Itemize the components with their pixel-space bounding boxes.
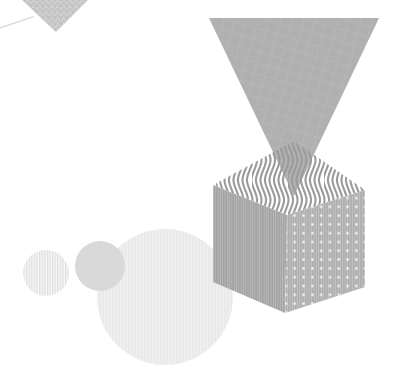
circle-small-striped [23, 250, 69, 296]
scene-svg [0, 0, 394, 374]
circle-medium [75, 241, 125, 291]
accent-line [0, 17, 34, 29]
abstract-art-canvas [0, 0, 394, 374]
cube [213, 141, 365, 313]
grain-corner-triangle [22, 0, 88, 32]
